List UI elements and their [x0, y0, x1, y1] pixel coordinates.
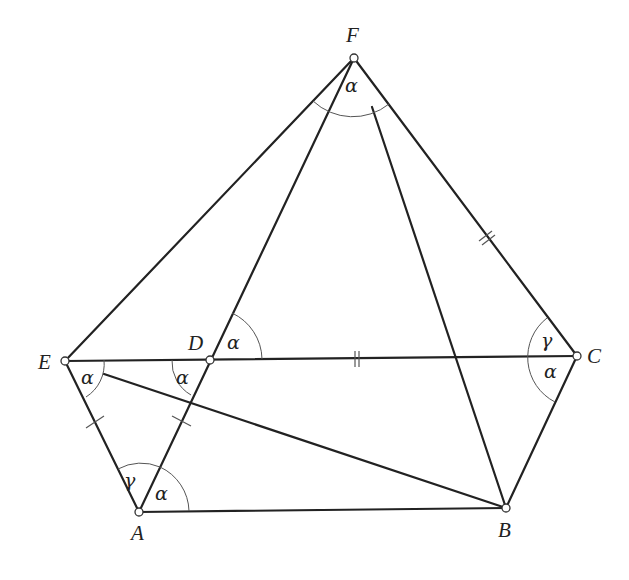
angle-label-E: α: [81, 366, 94, 388]
point-E: [61, 357, 69, 365]
segment-BA: [139, 508, 506, 512]
label-A: A: [129, 521, 144, 545]
angle-label-A-left: γ: [124, 469, 136, 491]
tick-EA: [86, 416, 104, 428]
point-F: [350, 54, 358, 62]
segment-EF: [65, 58, 354, 361]
label-B: B: [498, 518, 511, 542]
label-E: E: [37, 350, 51, 374]
segment-CB: [506, 356, 577, 508]
angle-arc-F: [313, 101, 389, 117]
label-F: F: [345, 23, 359, 47]
angle-label-D-lower: α: [176, 366, 189, 388]
point-A: [135, 508, 143, 516]
label-C: C: [587, 344, 602, 368]
angle-label-D-upper: α: [227, 331, 240, 353]
point-B: [502, 504, 510, 512]
segment-EC: [65, 356, 577, 361]
geometry-diagram: A B C D E F α α α α γ α γ α: [0, 0, 629, 580]
segment-AF: [139, 58, 354, 512]
point-D: [206, 356, 214, 364]
segment-FB: [372, 107, 506, 508]
angle-label-C-lower: α: [544, 360, 557, 382]
angle-label-F: α: [345, 74, 358, 96]
label-D: D: [187, 331, 203, 355]
point-C: [573, 352, 581, 360]
angle-label-A-right: α: [155, 482, 168, 504]
angle-label-C-upper: γ: [541, 329, 553, 351]
segment-FC: [354, 58, 577, 356]
